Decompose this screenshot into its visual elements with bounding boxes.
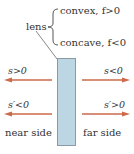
near-side-label: near side	[5, 128, 52, 138]
s-prime-positive-label: s′>0	[104, 100, 125, 110]
arrow-left-bottom-icon	[4, 112, 52, 117]
arrow-right-top-icon	[82, 78, 130, 83]
arrow-right-bottom-icon	[82, 112, 130, 117]
lens-label: lens	[26, 22, 47, 32]
brace-icon	[48, 9, 58, 45]
leader-line	[36, 31, 57, 59]
arrow-left-top-icon	[4, 78, 52, 83]
concave-label: concave, f<0	[60, 38, 126, 48]
far-side-label: far side	[83, 128, 121, 138]
s-prime-negative-label: s′<0	[8, 100, 29, 110]
convex-label: convex, f>0	[60, 6, 120, 16]
lens-rectangle	[57, 58, 76, 146]
s-positive-label: s>0	[8, 66, 27, 76]
s-negative-label: s<0	[104, 66, 123, 76]
